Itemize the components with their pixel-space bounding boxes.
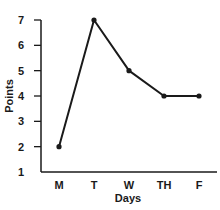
series-line bbox=[59, 20, 199, 147]
y-axis-title: Points bbox=[3, 79, 15, 113]
x-tick-label: T bbox=[91, 179, 98, 191]
y-tick-label: 7 bbox=[18, 14, 24, 26]
data-point-marker bbox=[56, 144, 61, 149]
data-point-marker bbox=[161, 93, 166, 98]
x-axis-title: Days bbox=[115, 192, 141, 204]
data-series bbox=[56, 17, 201, 149]
data-point-marker bbox=[196, 93, 201, 98]
x-tick-label: M bbox=[54, 179, 63, 191]
y-axis: 1234567 bbox=[18, 14, 41, 178]
x-tick-label: W bbox=[124, 179, 135, 191]
data-point-marker bbox=[126, 68, 131, 73]
y-tick-label: 6 bbox=[18, 39, 24, 51]
data-point-marker bbox=[91, 17, 96, 22]
y-tick-label: 3 bbox=[18, 115, 24, 127]
line-chart: 1234567 MTWTHF Points Days bbox=[0, 0, 220, 210]
y-tick-label: 4 bbox=[18, 90, 25, 102]
y-tick-label: 5 bbox=[18, 65, 24, 77]
x-axis: MTWTHF bbox=[41, 172, 217, 191]
y-tick-label: 1 bbox=[18, 166, 24, 178]
x-tick-label: F bbox=[196, 179, 203, 191]
y-tick-label: 2 bbox=[18, 141, 24, 153]
x-tick-label: TH bbox=[157, 179, 172, 191]
